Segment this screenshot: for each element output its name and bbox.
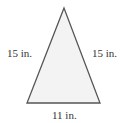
triangle-figure bbox=[0, 0, 124, 123]
right-side-label: 15 in. bbox=[92, 48, 117, 59]
left-side-label: 15 in. bbox=[7, 48, 32, 59]
isosceles-triangle bbox=[27, 8, 100, 103]
base-label: 11 in. bbox=[52, 110, 77, 121]
